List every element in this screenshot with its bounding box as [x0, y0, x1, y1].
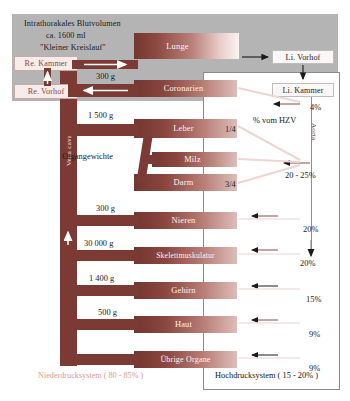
fraction-darm: 3/4: [225, 181, 236, 189]
organ-weights-caption: Organgewichte: [62, 153, 113, 161]
high-pressure-footer: Hochdrucksystem ( 15 - 20% ): [215, 371, 318, 380]
weight-coronarien: 300 g: [96, 73, 115, 81]
fraction-leber: 1/4: [225, 126, 236, 134]
low-pressure-footer: Niederdrucksystem ( 80 - 85% ): [38, 371, 143, 380]
arrow-overlay: [0, 0, 350, 401]
percent-of-co-caption: % vom HZV: [253, 117, 296, 125]
weight-haut: 500 g: [98, 309, 117, 317]
line-milz-to-splanchnic: [238, 159, 300, 162]
line-coronarien-to-aorta: [238, 88, 300, 102]
weight-nieren: 300 g: [96, 205, 115, 213]
percent-skelettmuskulatur: 20%: [300, 260, 315, 268]
diagram-canvas: Intrathorakales Blutvolumen ca. 1600 ml …: [0, 0, 350, 401]
percent-nieren: 20%: [303, 226, 318, 234]
percent-leber: 20 - 25%: [285, 172, 316, 180]
weight-skelettmuskulatur: 30 000 g: [84, 240, 113, 248]
percent-haut: 9%: [309, 331, 320, 339]
weight-gehirn: 1 400 g: [89, 275, 114, 283]
weight-leber: 1 500 g: [88, 112, 113, 120]
line-leber-to-splanchnic: [238, 126, 300, 160]
percent-gehirn: 15%: [306, 296, 321, 304]
percent-coronarien: 4%: [310, 104, 321, 112]
